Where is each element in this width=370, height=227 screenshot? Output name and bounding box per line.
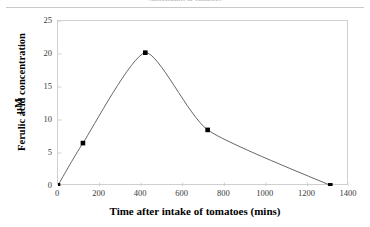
x-tick-label: 800	[203, 188, 243, 198]
x-tick-label: 0	[37, 188, 77, 198]
data-point-marker	[58, 183, 60, 186]
y-tick-label: 5	[26, 147, 52, 157]
x-tick-label: 1000	[245, 188, 285, 198]
data-point-marker	[328, 183, 333, 186]
y-tick-label: 10	[26, 114, 52, 124]
x-axis-title: Time after intake of tomatoes (mins)	[30, 205, 360, 217]
chart-figure: Ferulic acid concentration μM 0510152025…	[0, 9, 370, 227]
x-tick-label: 200	[79, 188, 119, 198]
data-series-curve	[58, 53, 330, 186]
x-tick-label: 1200	[286, 188, 326, 198]
data-point-marker	[205, 128, 210, 133]
data-point-markers	[58, 50, 333, 186]
axis-tick-marks	[58, 21, 349, 186]
page-running-header: Antioxidants in Tomatoes	[0, 0, 370, 9]
x-tick-label: 600	[162, 188, 202, 198]
header-divider	[6, 7, 364, 8]
x-tick-label: 1400	[328, 188, 368, 198]
y-tick-label: 25	[26, 15, 52, 25]
line-chart-svg	[58, 21, 349, 186]
y-axis-unit-label: μM	[13, 81, 25, 131]
plot-area	[57, 20, 348, 185]
running-head-text: Antioxidants in Tomatoes	[0, 0, 370, 2]
y-tick-label: 20	[26, 48, 52, 58]
y-tick-label: 15	[26, 81, 52, 91]
data-point-marker	[81, 141, 86, 146]
data-point-marker	[143, 50, 148, 55]
x-tick-label: 400	[120, 188, 160, 198]
